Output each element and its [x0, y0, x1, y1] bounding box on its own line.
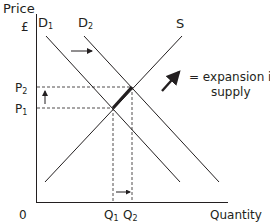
- supply-demand-diagram: Price £ Quantity 0 D1 D2 S P2 P1 Q1 Q2 =…: [0, 0, 270, 223]
- legend-text-line2: supply: [211, 85, 251, 99]
- q1-label: Q1: [104, 208, 119, 223]
- p1-label: P1: [15, 102, 27, 117]
- legend-text-line1: = expansion in: [189, 70, 270, 84]
- d2-label: D2: [78, 15, 93, 31]
- q2-label: Q2: [123, 208, 138, 223]
- p2-label: P2: [15, 81, 27, 96]
- legend-arrow-icon: [162, 72, 179, 91]
- x-axis-label: Quantity: [210, 208, 262, 222]
- d1-label: D1: [38, 15, 53, 31]
- y-axis-unit: £: [21, 20, 29, 34]
- y-axis-label: Price: [3, 1, 35, 16]
- expansion-segment: [113, 87, 132, 108]
- s-label: S: [176, 16, 184, 31]
- origin-label: 0: [19, 208, 27, 222]
- demand-curve-d2: [84, 36, 219, 182]
